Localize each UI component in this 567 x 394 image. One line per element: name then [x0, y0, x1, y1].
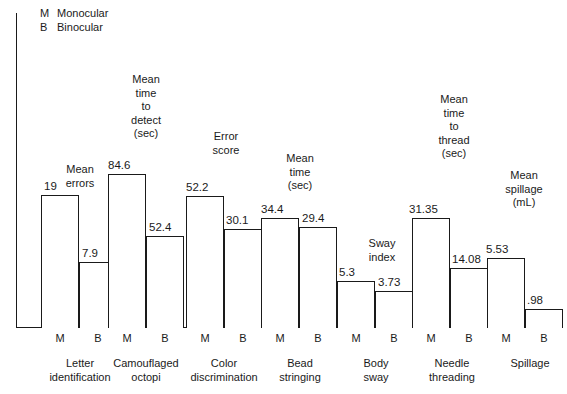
- bar-monocular-3: [186, 196, 224, 328]
- bar-binocular-3: [224, 229, 262, 328]
- measure-label-2: Mean time to detect (sec): [104, 73, 188, 141]
- x-tick-monocular-7: M: [496, 332, 516, 344]
- x-tick-monocular-3: M: [195, 332, 215, 344]
- bar-value-monocular-6: 31.35: [409, 203, 438, 215]
- measure-label-4: Mean time (sec): [258, 152, 342, 193]
- bar-value-binocular-1: 7.9: [82, 247, 98, 259]
- measure-label-3: Error score: [184, 130, 268, 157]
- x-tick-monocular-1: M: [50, 332, 70, 344]
- bar-binocular-2: [146, 236, 184, 328]
- bar-binocular-6: [450, 268, 488, 328]
- x-tick-binocular-1: B: [88, 332, 108, 344]
- x-tick-binocular-7: B: [534, 332, 554, 344]
- bar-value-monocular-7: 5.53: [486, 243, 508, 255]
- bar-value-binocular-2: 52.4: [149, 221, 171, 233]
- bar-monocular-7: [487, 258, 525, 328]
- bar-value-monocular-3: 52.2: [186, 181, 208, 193]
- bar-binocular-7: [525, 309, 563, 328]
- bar-binocular-4: [299, 227, 337, 328]
- measure-label-6: Mean time to thread (sec): [412, 93, 496, 161]
- x-tick-binocular-4: B: [308, 332, 328, 344]
- x-tick-binocular-3: B: [233, 332, 253, 344]
- bar-binocular-5: [375, 291, 413, 328]
- x-tick-binocular-2: B: [155, 332, 175, 344]
- x-tick-monocular-5: M: [346, 332, 366, 344]
- bar-value-monocular-2: 84.6: [108, 159, 130, 171]
- x-tick-binocular-6: B: [459, 332, 479, 344]
- bar-value-binocular-6: 14.08: [452, 253, 481, 265]
- bar-value-binocular-3: 30.1: [226, 214, 248, 226]
- bar-value-binocular-4: 29.4: [302, 212, 324, 224]
- category-label-7: Spillage: [476, 357, 567, 371]
- x-tick-monocular-6: M: [421, 332, 441, 344]
- bar-monocular-4: [261, 218, 299, 328]
- bar-monocular-5: [337, 281, 375, 328]
- measure-label-7: Mean spillage (mL): [482, 169, 566, 210]
- bar-monocular-6: [412, 218, 450, 328]
- x-tick-binocular-5: B: [384, 332, 404, 344]
- x-tick-monocular-2: M: [117, 332, 137, 344]
- bar-monocular-1: [41, 195, 79, 328]
- bar-monocular-2: [108, 174, 146, 328]
- bar-value-monocular-5: 5.3: [339, 266, 355, 278]
- bar-value-binocular-7: .98: [527, 294, 543, 306]
- bar-value-binocular-5: 3.73: [378, 276, 400, 288]
- x-tick-monocular-4: M: [270, 332, 290, 344]
- bar-value-monocular-4: 34.4: [261, 203, 283, 215]
